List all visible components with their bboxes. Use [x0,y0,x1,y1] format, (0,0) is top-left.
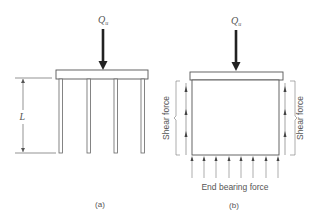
pile-4 [141,79,145,153]
shear-force-label-left: Shear force [161,96,171,140]
caption-b: (b) [229,201,239,210]
shear-force-label-right: Shear force [295,96,305,140]
pile-group-figure: Qu L (a) Qu [0,0,323,220]
pile-3 [114,79,118,153]
pile-cap-b [190,72,283,80]
panel-a: Qu L (a) [15,14,148,209]
end-bearing-arrows [191,156,280,178]
load-label-b: Qu [231,15,241,27]
pile-2 [87,79,91,153]
end-bearing-force-label: End bearing force [201,182,268,192]
length-label: L [19,111,26,122]
pile-1 [59,79,63,153]
piles [59,79,145,153]
caption-a: (a) [95,200,105,209]
pile-cap-a [56,70,148,79]
pile-group-block [192,80,279,155]
load-arrow-b [232,30,241,71]
load-arrow-a [99,29,108,70]
load-label-a: Qu [98,14,108,26]
panel-b: Qu Shear force Shear force [161,15,305,210]
shear-bracket-left [174,81,180,155]
shear-arrows-left [185,83,188,155]
shear-arrows-right [284,83,287,155]
